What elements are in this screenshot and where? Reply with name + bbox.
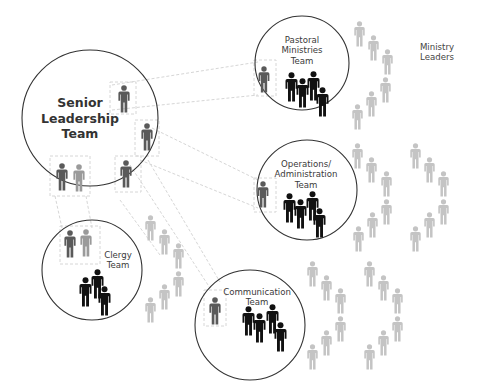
pastoral-ministries-label: Pastoral Ministries Team <box>281 35 322 66</box>
person-icon <box>410 143 420 168</box>
person-icon <box>366 91 376 116</box>
person-icon <box>392 316 402 341</box>
person-icon <box>364 261 374 286</box>
person-icon <box>159 229 169 254</box>
person-icon <box>173 243 183 268</box>
person-icon <box>73 164 84 191</box>
person-icon <box>243 306 255 335</box>
person-icon <box>392 288 402 313</box>
person-icon <box>317 87 329 116</box>
person-icon <box>438 199 448 224</box>
connector-senior-to-clergy-left <box>55 196 62 228</box>
person-icon <box>321 330 331 355</box>
person-icon <box>321 275 331 300</box>
person-icon <box>380 77 390 102</box>
connector-clergy-side <box>120 200 160 255</box>
connector-senior-to-pastoral-bottom <box>112 95 258 110</box>
person-icon <box>307 344 317 369</box>
person-icon <box>367 212 377 237</box>
person-icon <box>145 297 155 322</box>
person-icon <box>173 271 183 296</box>
person-icon <box>366 157 376 182</box>
person-icon <box>64 230 75 257</box>
connector-senior-to-clergy-right <box>86 196 92 228</box>
person-icon <box>378 330 388 355</box>
person-icon <box>410 226 420 251</box>
ministry-leaders <box>145 21 448 369</box>
person-icon <box>354 21 364 46</box>
person-icon <box>209 297 220 324</box>
person-icon <box>80 277 92 306</box>
diagram-canvas <box>0 0 479 387</box>
person-icon <box>368 35 378 60</box>
person-icon <box>352 104 362 129</box>
senior-leadership-label: Senior Leadership Team <box>41 95 119 142</box>
person-icon <box>297 78 309 107</box>
org-diagram: Senior Leadership Team Pastoral Ministri… <box>0 0 479 387</box>
person-icon <box>381 199 391 224</box>
clergy-label: Clergy Team <box>104 250 132 271</box>
person-icon <box>378 275 388 300</box>
person-icon <box>120 160 131 187</box>
connector-senior-to-operations-top <box>152 128 258 180</box>
team-circles <box>22 16 357 380</box>
person-icon <box>353 226 363 251</box>
person-icon <box>335 316 345 341</box>
person-icon <box>364 344 374 369</box>
person-icon <box>286 72 298 101</box>
person-icon <box>259 66 270 92</box>
person-icon <box>438 171 448 196</box>
person-icon <box>80 229 91 256</box>
person-icon <box>141 123 152 150</box>
clergy-members <box>64 229 110 315</box>
communication-label: Communication Team <box>223 287 291 308</box>
person-icon <box>424 157 434 182</box>
person-icon <box>159 284 169 309</box>
person-icon <box>352 143 362 168</box>
person-icon <box>382 49 392 74</box>
person-icon <box>275 322 287 351</box>
person-icon <box>335 288 345 313</box>
person-icon <box>424 212 434 237</box>
person-icon <box>284 193 296 222</box>
connector-senior-to-operations-bottom <box>140 160 258 208</box>
person-icon <box>254 313 266 342</box>
person-icon <box>56 163 67 190</box>
person-icon <box>295 199 307 228</box>
person-icon <box>307 261 317 286</box>
operations-administration-label: Operations/ Administration Team <box>275 159 338 190</box>
person-icon <box>381 171 391 196</box>
ministry-leaders-label: Ministry Leaders <box>420 42 454 63</box>
